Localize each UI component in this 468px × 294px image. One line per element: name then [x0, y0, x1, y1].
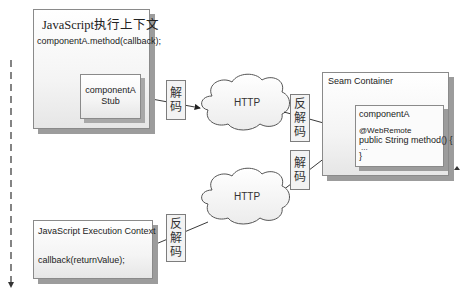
- encode-tag-2: 解 码: [290, 150, 310, 190]
- method-call-text: componentA.method(callback);: [37, 36, 161, 46]
- component-stub-box: componentA Stub: [80, 74, 141, 119]
- decode-char: 反: [291, 97, 309, 111]
- decode-tag-1: 反 解 码: [290, 94, 310, 142]
- decode-char: 码: [291, 125, 309, 139]
- http-label-lower: HTTP: [222, 191, 272, 202]
- encode-char: 码: [291, 170, 309, 184]
- edge-marker-icon: [454, 166, 460, 170]
- seam-container-title: Seam Container: [328, 76, 393, 86]
- decode-char: 解: [291, 111, 309, 125]
- stub-line-2: Stub: [81, 96, 140, 106]
- callback-text: callback(returnValue);: [38, 255, 125, 265]
- component-a-box: componentA @WebRemote public String meth…: [355, 105, 444, 167]
- http-label-upper: HTTP: [222, 97, 272, 108]
- decode-char: 反: [167, 217, 185, 231]
- decode-tag-2: 反 解 码: [166, 214, 186, 262]
- js-execution-context-title: JavaScript Execution Context: [38, 226, 156, 236]
- encode-char: 解: [167, 86, 185, 100]
- method-signature: public String method() {: [359, 135, 453, 145]
- method-close-brace: }: [359, 151, 362, 161]
- decode-char: 码: [167, 245, 185, 259]
- encode-char: 解: [291, 156, 309, 170]
- decode-char: 解: [167, 231, 185, 245]
- encode-tag-1: 解 码: [166, 80, 186, 120]
- js-context-top-title: JavaScript执行上下文: [42, 14, 159, 33]
- timeline-arrow: [8, 60, 14, 288]
- js-execution-context-bottom: JavaScript Execution Context callback(re…: [33, 220, 153, 279]
- web-remote-annotation: @WebRemote: [359, 126, 411, 135]
- encode-char: 码: [167, 100, 185, 114]
- component-a-name: componentA: [359, 109, 410, 119]
- stub-line-1: componentA: [81, 85, 140, 95]
